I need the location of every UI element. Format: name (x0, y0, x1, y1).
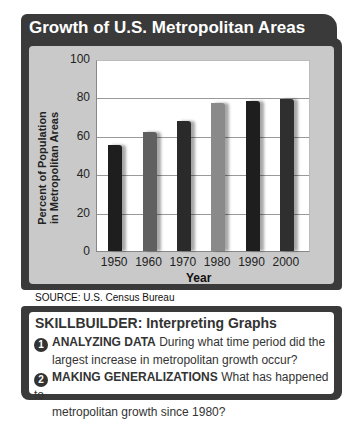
gridline (97, 175, 309, 176)
question-2: 2MAKING GENERALIZATIONS What has happene… (34, 369, 334, 421)
y-tick-label: 20 (60, 206, 90, 220)
y-tick-label: 0 (60, 244, 90, 258)
y-axis-label-line2: in Metropolitan Areas (48, 103, 60, 233)
plot-area (96, 60, 310, 252)
bar-1960 (143, 132, 157, 251)
gridline (97, 137, 309, 138)
source-note: SOURCE: U.S. Census Bureau (35, 292, 175, 303)
bar-1980 (211, 103, 225, 251)
x-axis-label: Year (186, 271, 211, 285)
bar-2000 (280, 99, 294, 251)
number-1-icon: 1 (34, 338, 48, 352)
gridline (97, 98, 309, 99)
y-tick-label: 60 (60, 129, 90, 143)
y-tick-label: 80 (60, 90, 90, 104)
y-axis-label-line1: Percent of Population (36, 103, 48, 233)
y-tick-label: 40 (60, 167, 90, 181)
question-1-text-cont: largest increase in metropolitan growth … (34, 352, 334, 369)
question-2-heading: MAKING GENERALIZATIONS (52, 370, 218, 384)
gridline (97, 214, 309, 215)
bar-1950 (108, 145, 122, 251)
y-axis-label: Percent of Population in Metropolitan Ar… (38, 100, 58, 240)
question-1-heading: ANALYZING DATA (52, 335, 156, 349)
x-tick-label: 2000 (266, 255, 306, 269)
question-1-text: During what time period did the (159, 335, 325, 349)
question-1: 1ANALYZING DATA During what time period … (34, 334, 334, 369)
bar-1970 (177, 121, 191, 251)
bar-1990 (246, 101, 260, 251)
question-2-text-cont: metropolitan growth since 1980? (34, 404, 334, 421)
number-2-icon: 2 (34, 373, 48, 387)
chart-title: Growth of U.S. Metropolitan Areas (21, 14, 337, 42)
skillbuilder-title: SKILLBUILDER: Interpreting Graphs (35, 315, 277, 331)
y-tick-label: 100 (60, 52, 90, 66)
